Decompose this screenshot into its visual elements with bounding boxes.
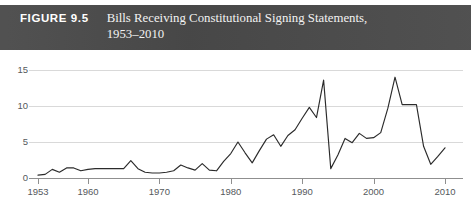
x-tick-label-1970: 1970 xyxy=(139,187,179,197)
figure-header-band: FIGURE 9.5 Bills Receiving Constitutiona… xyxy=(0,5,471,50)
x-tick-label-1980: 1980 xyxy=(211,187,251,197)
figure-header-inner: FIGURE 9.5 Bills Receiving Constitutiona… xyxy=(20,11,463,42)
y-tick-label-15: 15 xyxy=(6,65,28,75)
x-tick-label-1960: 1960 xyxy=(68,187,108,197)
y-tick-label-10: 10 xyxy=(6,101,28,111)
x-tick-label-2000: 2000 xyxy=(354,187,394,197)
x-tick-label-2010: 2010 xyxy=(425,187,465,197)
y-tick-label-5: 5 xyxy=(6,137,28,147)
data-series-line xyxy=(38,77,445,175)
x-tick-label-1953: 1953 xyxy=(18,187,58,197)
y-tick-label-0: 0 xyxy=(6,173,28,183)
figure-title: Bills Receiving Constitutional Signing S… xyxy=(107,11,368,42)
figure-title-line-1: Bills Receiving Constitutional Signing S… xyxy=(107,11,368,27)
x-tick-label-1990: 1990 xyxy=(282,187,322,197)
figure-title-line-2: 1953–2010 xyxy=(107,27,368,43)
axis-group xyxy=(39,179,446,184)
figure-number-label: FIGURE 9.5 xyxy=(20,11,89,24)
figure-container: FIGURE 9.5 Bills Receiving Constitutiona… xyxy=(0,0,471,214)
chart-plot-area: 051015 1953196019701980199020002010 xyxy=(0,50,471,214)
